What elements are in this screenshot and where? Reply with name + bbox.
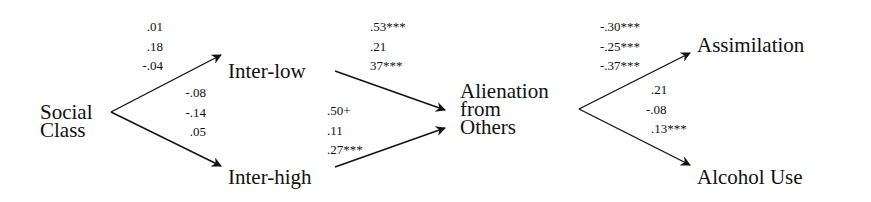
coef-value: .05 [176,122,206,142]
coef-value: -.14 [176,103,206,123]
coef-value: -.08 [644,100,687,120]
coef-value: 37*** [370,56,406,76]
node-social-class: Social Class [40,103,93,139]
coef-value: -.25*** [600,37,640,57]
coef-social-to-interhigh: -.08 -.14 .05 [176,83,206,142]
coef-social-to-interlow: .01 .18 -.04 [133,17,163,76]
node-alienation: Alienation from Others [460,82,549,136]
coef-value: .27*** [327,140,363,160]
coef-value: -.37*** [600,56,640,76]
coef-value: .53*** [370,17,406,37]
coef-value: .50+ [327,101,363,121]
node-inter-high: Inter-high [228,168,312,186]
coef-interhigh-to-alienation: .50+ .11 .27*** [327,101,363,160]
node-inter-low: Inter-low [228,62,306,80]
coef-interlow-to-alienation: .53*** .21 37*** [370,17,406,76]
node-assimilation: Assimilation [697,36,804,54]
coef-value: -.08 [176,83,206,103]
coef-value: .21 [370,37,406,57]
coef-value: .13*** [644,119,687,139]
node-social-class-line2: Class [40,121,93,139]
coef-alienation-to-assimilation: -.30*** -.25*** -.37*** [600,17,640,76]
coef-value: .11 [327,121,363,141]
coef-value: -.04 [133,56,163,76]
coef-value: .18 [133,37,163,57]
node-alienation-line3: Others [460,118,549,136]
coef-value: -.30*** [600,17,640,37]
node-alcohol-use: Alcohol Use [697,168,803,186]
coef-value: .01 [133,17,163,37]
coef-value: .21 [644,80,687,100]
coef-alienation-to-alcohol: .21 -.08 .13*** [644,80,687,139]
